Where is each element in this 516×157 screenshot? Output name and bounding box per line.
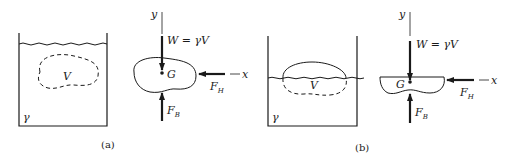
y-axis-label-b: y [398, 8, 406, 21]
weight-label-a: W = γV [167, 34, 210, 47]
fluid-weight-label-b: γ [272, 111, 279, 124]
floating-body-above-b [283, 62, 346, 78]
fluid-weight-label-a: γ [23, 111, 30, 124]
volume-label-b: V [310, 79, 319, 92]
free-body-b: y W = γV G x FH FB [380, 8, 498, 123]
buoyant-force-label-b: FB [414, 106, 428, 121]
weight-label-b: W = γV [416, 38, 459, 51]
buoyant-force-label-a: FB [166, 104, 180, 119]
caption-a: (a) [101, 139, 115, 150]
tank-b: V γ [268, 36, 364, 126]
centroid-dot-b [408, 80, 412, 84]
tank-a: V γ [19, 33, 107, 126]
caption-b: (b) [355, 142, 369, 153]
y-axis-label-a: y [150, 8, 158, 21]
panel-b: V γ y W = γV G x FH FB (b) [268, 8, 498, 153]
buoyancy-figure: V γ y W = γV G x FH FB (a) V [0, 0, 516, 157]
x-axis-label-a: x [242, 68, 249, 81]
body-outline-b [380, 77, 444, 94]
body-outline-a [134, 58, 196, 93]
free-surface-a [19, 43, 107, 45]
horizontal-force-label-a: FH [209, 80, 225, 95]
horizontal-force-label-b: FH [459, 86, 475, 101]
volume-label-a: V [63, 70, 72, 83]
free-body-a: y W = γV G x FH FB [134, 8, 249, 121]
x-axis-label-b: x [491, 74, 498, 87]
centroid-dot-a [160, 71, 164, 75]
panel-a: V γ y W = γV G x FH FB (a) [19, 8, 249, 150]
centroid-label-b: G [396, 78, 405, 91]
centroid-label-a: G [167, 68, 176, 81]
